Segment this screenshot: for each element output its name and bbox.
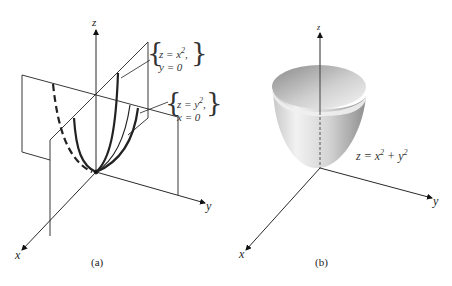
x-axis-label-a: x: [15, 249, 20, 261]
x-axis-label-b: x: [239, 248, 244, 260]
brace-right-1: }: [191, 40, 208, 66]
brace-right-2: }: [206, 90, 223, 116]
equation-xz-curve: z = x2, y = 0: [159, 44, 188, 74]
paraboloid-rim: [272, 65, 366, 109]
figure-b: [246, 33, 432, 250]
x-axis-b: [246, 168, 320, 250]
z-axis-label-b: z: [317, 24, 320, 32]
parabola-dashed: [53, 84, 92, 172]
figure-canvas: [0, 0, 452, 286]
z-axis-label-a: z: [92, 17, 96, 28]
x-axis: [22, 172, 96, 250]
y-axis-b: [320, 168, 432, 198]
plane-y0: [22, 75, 178, 195]
y-axis-label-a: y: [206, 200, 211, 212]
y-axis-label-b: y: [433, 195, 438, 207]
equation-yz-curve: z = y2, x = 0: [177, 94, 206, 124]
y-axis: [96, 172, 205, 203]
caption-b: (b): [315, 257, 328, 268]
caption-a: (a): [91, 257, 103, 268]
parabola-x: [96, 73, 118, 172]
parabola-front: [74, 118, 96, 172]
surface-equation: z = x2 + y2: [356, 146, 408, 163]
